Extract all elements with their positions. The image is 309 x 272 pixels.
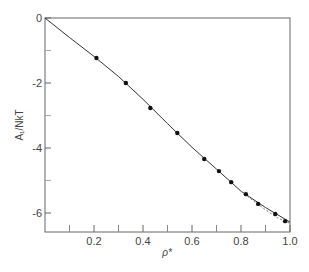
y-tick-label: -6 [32, 207, 42, 219]
tick-labels: 0.20.40.60.81.00-2-4-6 [32, 12, 297, 247]
x-tick-label: 0.6 [184, 235, 199, 247]
data-point [229, 180, 233, 184]
data-point [175, 131, 179, 135]
data-point [244, 192, 248, 196]
x-tick-label: 1.0 [282, 235, 297, 247]
x-axis-label: ρ* [161, 247, 173, 258]
x-tick-label: 0.8 [233, 235, 248, 247]
data-point [256, 202, 260, 206]
data-point [94, 56, 98, 60]
data-point [217, 169, 221, 173]
y-tick-label: -2 [32, 77, 42, 89]
data-point [273, 212, 277, 216]
x-tick-label: 0.4 [135, 235, 150, 247]
x-tick-label: 0.2 [86, 235, 101, 247]
chart: 0.20.40.60.81.00-2-4-6 ρ* A₁/NkT [0, 0, 309, 272]
data-point [202, 157, 206, 161]
data-point [124, 81, 128, 85]
y-axis-label: A₁/NkT [14, 109, 25, 140]
y-tick-label: -4 [32, 142, 42, 154]
data-curves [45, 18, 290, 223]
y-tick-label: 0 [36, 12, 42, 24]
data-point [283, 219, 287, 223]
data-point [148, 106, 152, 110]
solid-curve [45, 18, 290, 222]
